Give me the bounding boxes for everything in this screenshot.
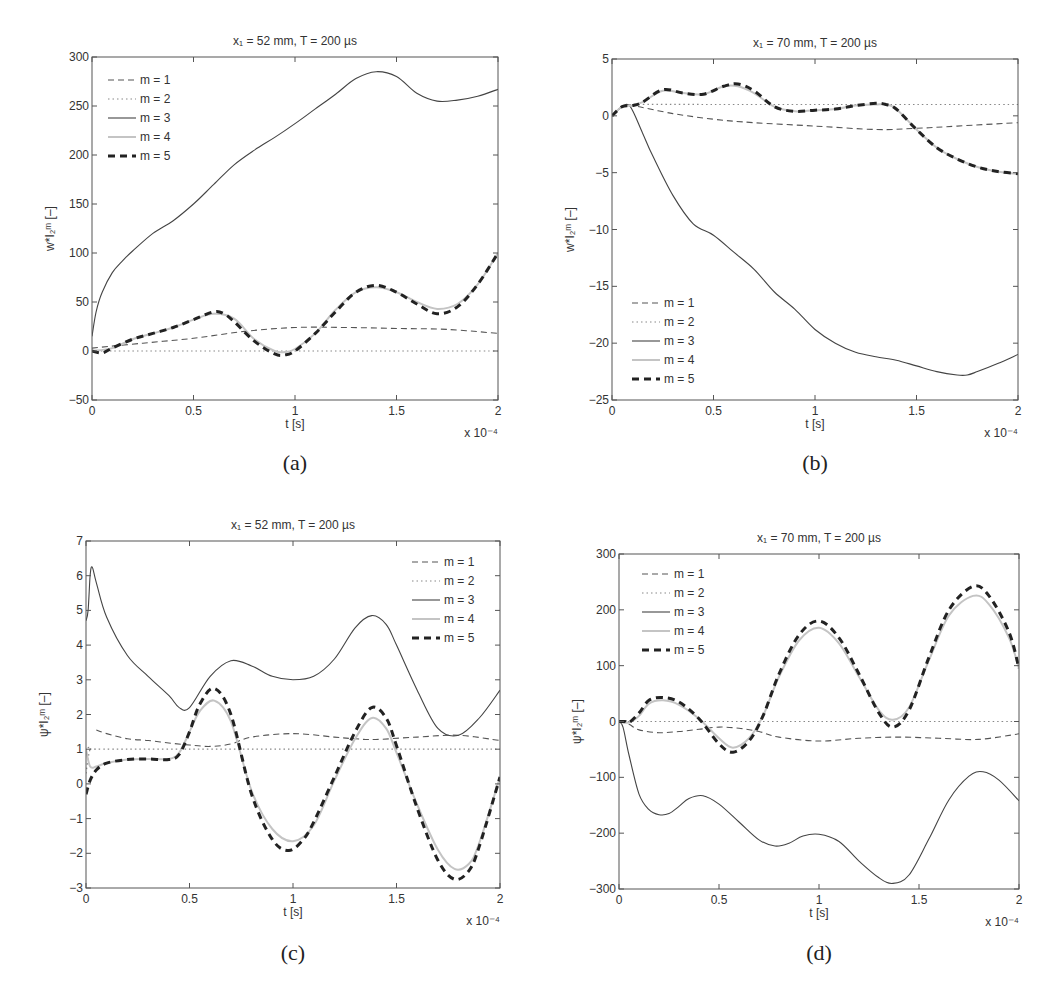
x-tick-label: 2 (1016, 893, 1023, 907)
y-tick-label: 2 (76, 708, 83, 722)
x-tick-label: 2 (1015, 404, 1022, 418)
y-axis-label: ψ*I₂ᵐ [–] (37, 692, 51, 737)
series-line-m1 (96, 730, 500, 746)
plot-area (86, 567, 500, 880)
legend-label-m1: m = 1 (664, 296, 695, 310)
legend-label-m4: m = 4 (140, 130, 171, 144)
legend-label-m1: m = 1 (444, 555, 475, 569)
x-tick-label: 0.5 (705, 404, 722, 418)
y-tick-label: −20 (589, 336, 610, 350)
x-tick-label: 1.5 (908, 404, 925, 418)
series-line-m3 (86, 567, 500, 736)
x-axis-multiplier: x 10⁻⁴ (466, 914, 500, 928)
x-axis-label: t [s] (283, 905, 302, 919)
panel-label: (b) (802, 450, 828, 475)
y-tick-label: 3 (76, 673, 83, 687)
y-tick-label: 6 (76, 569, 83, 583)
panel-label: (c) (281, 940, 305, 965)
x-tick-label: 1 (812, 404, 819, 418)
series-line-m5 (92, 253, 498, 355)
x-axis-label: t [s] (805, 417, 824, 431)
y-tick-label: −2 (69, 846, 83, 860)
x-tick-label: 1 (292, 404, 299, 418)
y-tick-label: 4 (76, 638, 83, 652)
x-axis-multiplier: x 10⁻⁴ (984, 426, 1018, 440)
x-axis-label: t [s] (285, 417, 304, 431)
y-tick-label: 0 (609, 715, 616, 729)
chart-panel-a: 00.511.52−50050100150200250300x₁ = 52 mm… (43, 34, 502, 475)
chart-title: x₁ = 52 mm, T = 200 µs (233, 34, 357, 48)
y-tick-label: 150 (69, 197, 89, 211)
series-line-m4 (92, 253, 498, 352)
x-tick-label: 0 (609, 404, 616, 418)
legend-label-m3: m = 3 (140, 111, 171, 125)
y-tick-label: −300 (589, 882, 616, 896)
y-tick-label: −10 (589, 223, 610, 237)
legend: m = 1m = 2m = 3m = 4m = 5 (108, 73, 171, 163)
y-axis-label: ψ*I₂ᵐ [–] (570, 699, 584, 744)
x-axis-multiplier: x 10⁻⁴ (985, 915, 1019, 929)
chart-title: x₁ = 70 mm, T = 200 µs (757, 531, 881, 545)
y-tick-label: −200 (589, 826, 616, 840)
y-tick-label: 0 (82, 344, 89, 358)
panel-label: (d) (806, 940, 832, 965)
panel-label: (a) (283, 450, 307, 475)
x-tick-label: 1 (290, 892, 297, 906)
series-line-m3 (619, 722, 1019, 884)
legend-label-m5: m = 5 (674, 643, 705, 657)
y-tick-label: −100 (589, 770, 616, 784)
chart-panel-b: 00.511.52−25−20−15−10−505x₁ = 70 mm, T =… (563, 36, 1022, 475)
series-line-m5 (612, 84, 1018, 174)
x-tick-label: 0.5 (185, 404, 202, 418)
legend-label-m2: m = 2 (674, 586, 705, 600)
y-tick-label: 250 (69, 99, 89, 113)
x-tick-label: 2 (495, 404, 502, 418)
legend-label-m5: m = 5 (444, 631, 475, 645)
legend-label-m2: m = 2 (664, 315, 695, 329)
x-tick-label: 1.5 (388, 892, 405, 906)
y-axis-label: w*I₂ᵐ [–] (43, 206, 57, 252)
legend: m = 1m = 2m = 3m = 4m = 5 (412, 555, 475, 645)
y-tick-label: 50 (76, 295, 90, 309)
legend: m = 1m = 2m = 3m = 4m = 5 (632, 296, 695, 386)
legend-label-m2: m = 2 (444, 574, 475, 588)
plot-area (612, 84, 1018, 376)
x-axis-multiplier: x 10⁻⁴ (464, 426, 498, 440)
x-tick-label: 2 (497, 892, 504, 906)
chart-title: x₁ = 70 mm, T = 200 µs (753, 36, 877, 50)
legend-label-m3: m = 3 (674, 605, 705, 619)
y-tick-label: 300 (69, 50, 89, 64)
y-tick-label: −3 (69, 881, 83, 895)
legend-label-m5: m = 5 (664, 372, 695, 386)
legend-label-m1: m = 1 (140, 73, 171, 87)
x-axis-label: t [s] (809, 906, 828, 920)
legend-label-m1: m = 1 (674, 567, 705, 581)
y-tick-label: −1 (69, 812, 83, 826)
x-tick-label: 1 (816, 893, 823, 907)
legend-label-m5: m = 5 (140, 149, 171, 163)
y-tick-label: 7 (76, 534, 83, 548)
legend-label-m3: m = 3 (664, 334, 695, 348)
y-tick-label: 0 (602, 109, 609, 123)
legend-label-m4: m = 4 (674, 624, 705, 638)
series-line-m4 (612, 85, 1018, 173)
chart-title: x₁ = 52 mm, T = 200 µs (231, 518, 355, 532)
y-tick-label: 5 (76, 603, 83, 617)
series-line-m4 (86, 700, 500, 869)
y-axis-label: w*I₂ᵐ [–] (563, 207, 577, 253)
legend-label-m4: m = 4 (444, 612, 475, 626)
legend-label-m4: m = 4 (664, 353, 695, 367)
y-tick-label: 100 (596, 659, 616, 673)
y-tick-label: 300 (596, 547, 616, 561)
series-line-m2 (86, 747, 500, 773)
y-tick-label: 1 (76, 742, 83, 756)
legend: m = 1m = 2m = 3m = 4m = 5 (642, 567, 705, 657)
y-tick-label: −25 (589, 393, 610, 407)
x-tick-label: 0.5 (711, 893, 728, 907)
chart-panel-d: 00.511.52−300−200−1000100200300x₁ = 70 m… (570, 531, 1023, 965)
legend-label-m3: m = 3 (444, 593, 475, 607)
series-line-m1 (619, 722, 1019, 742)
x-tick-label: 0.5 (181, 892, 198, 906)
figure-2x2-line-charts: 00.511.52−50050100150200250300x₁ = 52 mm… (0, 0, 1049, 997)
y-tick-label: −50 (69, 393, 90, 407)
